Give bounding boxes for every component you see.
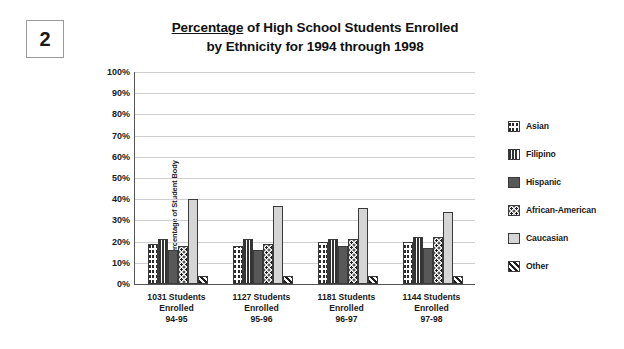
x-axis-group-label: 1144 StudentsEnrolled97-98	[389, 292, 474, 325]
bar	[338, 246, 348, 284]
question-number: 2	[39, 29, 50, 49]
bar	[403, 242, 413, 284]
bar-groups	[135, 72, 475, 284]
x-axis-label-line: 95-96	[219, 314, 304, 325]
bar	[443, 212, 453, 284]
x-axis-label-line: 94-95	[134, 314, 219, 325]
legend-item[interactable]: Other	[508, 252, 620, 280]
chart-title-underlined-word: Percentage	[172, 20, 244, 35]
bar-group	[390, 72, 475, 284]
bar	[368, 276, 378, 284]
bar	[413, 237, 423, 284]
y-axis-tick: 90%	[112, 88, 130, 98]
y-axis-tick: 40%	[112, 194, 130, 204]
bar	[263, 244, 273, 284]
legend-swatch-icon	[508, 149, 520, 160]
legend-swatch-icon	[508, 177, 520, 188]
x-axis-label-line: Enrolled	[389, 303, 474, 314]
bar	[178, 246, 188, 284]
legend-swatch-icon	[508, 205, 520, 216]
legend-swatch-icon	[508, 261, 520, 272]
plot-canvas	[134, 72, 475, 285]
bar	[148, 244, 158, 284]
bar-group	[305, 72, 390, 284]
chart-plot-area: Percentage of Student Body 100%90%80%70%…	[70, 72, 490, 290]
y-axis-tick: 50%	[112, 173, 130, 183]
bar	[198, 276, 208, 284]
bar	[233, 246, 243, 284]
y-axis-tick: 80%	[112, 109, 130, 119]
legend-item[interactable]: Filipino	[508, 140, 620, 168]
y-axis-tick: 60%	[112, 152, 130, 162]
bar	[328, 239, 338, 284]
y-axis-ticks: 100%90%80%70%60%50%40%30%20%10%0%	[92, 72, 130, 284]
legend-item[interactable]: African-American	[508, 196, 620, 224]
x-axis-label-line: 96-97	[304, 314, 389, 325]
legend-label: Hispanic	[526, 177, 561, 187]
bar	[253, 250, 263, 284]
bar	[423, 248, 433, 284]
y-axis-tick: 30%	[112, 215, 130, 225]
legend-item[interactable]: Asian	[508, 112, 620, 140]
y-axis-tick: 100%	[107, 67, 130, 77]
question-number-box: 2	[26, 20, 64, 58]
chart-legend: AsianFilipinoHispanicAfrican-AmericanCau…	[508, 112, 620, 280]
bar-group	[135, 72, 220, 284]
legend-label: African-American	[526, 205, 596, 215]
chart-title-line2: by Ethnicity for 1994 through 1998	[206, 39, 423, 54]
legend-swatch-icon	[508, 233, 520, 244]
y-axis-tick: 0%	[117, 279, 130, 289]
bar	[358, 208, 368, 284]
bar-group	[220, 72, 305, 284]
bar	[283, 276, 293, 284]
bar	[158, 239, 168, 284]
legend-label: Filipino	[526, 149, 556, 159]
x-axis-label-line: 1127 Students	[219, 292, 304, 303]
x-axis-label-line: 1144 Students	[389, 292, 474, 303]
bar	[243, 239, 253, 284]
legend-item[interactable]: Caucasian	[508, 224, 620, 252]
x-axis-label-line: 97-98	[389, 314, 474, 325]
legend-label: Caucasian	[526, 233, 568, 243]
legend-item[interactable]: Hispanic	[508, 168, 620, 196]
chart-title-line1-rest: of High School Students Enrolled	[243, 20, 458, 35]
x-axis-labels: 1031 StudentsEnrolled94-951127 StudentsE…	[134, 292, 474, 325]
x-axis-label-line: 1181 Students	[304, 292, 389, 303]
bar	[273, 206, 283, 284]
x-axis-group-label: 1181 StudentsEnrolled96-97	[304, 292, 389, 325]
x-axis-label-line: 1031 Students	[134, 292, 219, 303]
y-axis-tick: 20%	[112, 237, 130, 247]
legend-label: Other	[526, 261, 548, 271]
x-axis-label-line: Enrolled	[219, 303, 304, 314]
bar	[168, 250, 178, 284]
legend-swatch-icon	[508, 121, 520, 132]
bar	[188, 199, 198, 284]
bar	[348, 239, 358, 284]
chart-title: Percentage of High School Students Enrol…	[140, 18, 490, 56]
x-axis-label-line: Enrolled	[134, 303, 219, 314]
x-axis-group-label: 1127 StudentsEnrolled95-96	[219, 292, 304, 325]
y-axis-tick: 70%	[112, 131, 130, 141]
bar	[318, 242, 328, 284]
y-axis-tick: 10%	[112, 258, 130, 268]
x-axis-group-label: 1031 StudentsEnrolled94-95	[134, 292, 219, 325]
x-axis-label-line: Enrolled	[304, 303, 389, 314]
bar	[433, 237, 443, 284]
bar	[453, 276, 463, 284]
legend-label: Asian	[526, 121, 549, 131]
